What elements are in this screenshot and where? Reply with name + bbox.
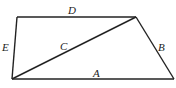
label-c: C xyxy=(60,40,68,52)
edge-c xyxy=(12,17,136,79)
diagram: D E C B A xyxy=(0,0,176,88)
edge-b xyxy=(136,17,174,79)
label-e: E xyxy=(1,41,9,53)
label-a: A xyxy=(92,67,100,79)
label-b: B xyxy=(158,41,165,53)
label-d: D xyxy=(67,4,76,16)
edge-e xyxy=(12,17,17,79)
